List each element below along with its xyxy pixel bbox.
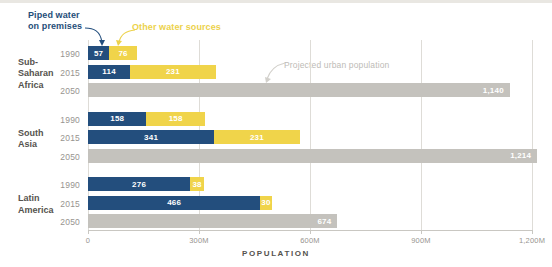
region-label: Sub- Saharan Africa [18, 57, 54, 92]
year-label-1990: 1990 [44, 115, 80, 125]
bar-row: 674 [88, 214, 337, 228]
bar-value-other: 38 [192, 180, 201, 189]
bar-row: 158158 [88, 112, 205, 126]
chart-root: Piped water on premises Other water sour… [0, 0, 552, 267]
bar-segment-piped: 341 [88, 130, 214, 144]
bar-segment-other: 158 [146, 112, 204, 126]
x-tick-mark [421, 230, 422, 234]
x-tick-mark [88, 230, 89, 234]
bar-value-piped: 341 [144, 133, 158, 142]
x-tick-mark [310, 230, 311, 234]
bar-value-projected: 1,214 [510, 151, 531, 160]
bar-value-piped: 276 [132, 180, 146, 189]
region-label: Latin America [18, 193, 54, 216]
bar-value-other: 231 [166, 67, 180, 76]
gridline-600M [310, 40, 311, 230]
bar-row: 46630 [88, 196, 272, 210]
year-label-2050: 2050 [44, 217, 80, 227]
bar-row: 1,214 [88, 149, 537, 163]
year-label-1990: 1990 [44, 180, 80, 190]
bar-value-piped: 158 [110, 114, 124, 123]
bar-segment-piped: 276 [88, 177, 190, 191]
bar-row: 5776 [88, 46, 137, 60]
bar-segment-projected: 1,214 [88, 149, 537, 163]
bar-segment-piped: 466 [88, 196, 260, 210]
x-tick-label: 900M [411, 236, 431, 245]
bar-segment-projected: 674 [88, 214, 337, 228]
bar-value-other: 231 [250, 133, 264, 142]
bar-value-projected: 1,140 [483, 86, 504, 95]
x-axis-title: POPULATION [0, 249, 552, 258]
year-label-2050: 2050 [44, 152, 80, 162]
legend-other-sources-label: Other water sources [132, 22, 221, 32]
bar-value-piped: 57 [94, 49, 103, 58]
bar-row: 114231 [88, 65, 216, 79]
bar-segment-projected: 1,140 [88, 83, 510, 97]
bar-value-projected: 674 [317, 217, 331, 226]
bar-segment-piped: 57 [88, 46, 109, 60]
top-divider [0, 0, 552, 3]
bar-segment-other: 38 [190, 177, 204, 191]
bar-value-other: 158 [169, 114, 183, 123]
bar-value-piped: 466 [167, 198, 181, 207]
bar-value-other: 30 [261, 198, 270, 207]
bar-row: 1,140 [88, 83, 510, 97]
bar-segment-other: 30 [260, 196, 271, 210]
bar-segment-piped: 158 [88, 112, 146, 126]
bar-row: 27638 [88, 177, 204, 191]
x-tick-label: 1,200M [519, 236, 545, 245]
x-tick-mark [532, 230, 533, 234]
x-tick-label: 600M [300, 236, 320, 245]
bar-value-other: 76 [118, 49, 127, 58]
bar-segment-other: 231 [214, 130, 299, 144]
gridline-900M [421, 40, 422, 230]
region-label: South Asia [18, 128, 44, 151]
legend-piped-water-label: Piped water on premises [28, 10, 82, 31]
x-tick-label: 0 [86, 236, 90, 245]
gridline-1,200M [532, 40, 533, 230]
bar-segment-other: 231 [130, 65, 215, 79]
bar-segment-other: 76 [109, 46, 137, 60]
bar-value-piped: 114 [102, 67, 116, 76]
bar-segment-piped: 114 [88, 65, 130, 79]
x-tick-label: 300M [189, 236, 209, 245]
x-tick-mark [199, 230, 200, 234]
year-label-2015: 2015 [44, 133, 80, 143]
bar-row: 341231 [88, 130, 300, 144]
plot-area: 57761142311,1401581583412311,21427638466… [88, 40, 532, 230]
